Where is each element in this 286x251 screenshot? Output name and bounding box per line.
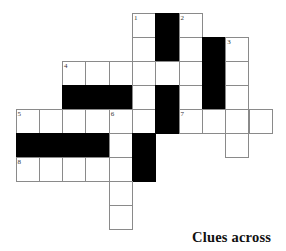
black-square — [16, 133, 40, 158]
answer-cell-3[interactable]: 3 — [225, 37, 249, 62]
answer-cell[interactable] — [109, 61, 133, 86]
answer-cell-7[interactable]: 7 — [179, 109, 203, 134]
answer-cell[interactable] — [85, 61, 109, 86]
answer-cell[interactable] — [132, 85, 156, 110]
black-square — [202, 37, 226, 62]
clue-number: 1 — [134, 14, 138, 22]
answer-cell-4[interactable]: 4 — [62, 61, 86, 86]
black-square — [155, 109, 179, 134]
answer-cell[interactable] — [155, 61, 179, 86]
answer-cell[interactable] — [39, 109, 63, 134]
clue-number: 2 — [181, 14, 185, 22]
answer-cell-6[interactable]: 6 — [109, 109, 133, 134]
clue-number: 7 — [181, 110, 185, 118]
answer-cell[interactable] — [132, 61, 156, 86]
answer-cell[interactable] — [39, 157, 63, 182]
answer-cell[interactable] — [62, 157, 86, 182]
answer-cell[interactable] — [62, 109, 86, 134]
answer-cell[interactable] — [225, 109, 249, 134]
answer-cell[interactable] — [225, 85, 249, 110]
crossword-grid: 12345678 — [0, 0, 286, 251]
clue-number: 8 — [18, 158, 22, 166]
black-square — [109, 85, 133, 110]
answer-cell[interactable] — [249, 109, 273, 134]
black-square — [132, 133, 156, 158]
clue-number: 4 — [64, 62, 68, 70]
answer-cell[interactable] — [225, 61, 249, 86]
black-square — [39, 133, 63, 158]
clue-number: 6 — [111, 110, 115, 118]
answer-cell[interactable] — [85, 157, 109, 182]
answer-cell[interactable] — [109, 181, 133, 206]
answer-cell[interactable] — [179, 37, 203, 62]
answer-cell[interactable] — [202, 109, 226, 134]
black-square — [155, 13, 179, 38]
black-square — [155, 85, 179, 110]
clue-number: 3 — [227, 38, 231, 46]
answer-cell[interactable] — [109, 205, 133, 230]
answer-cell-2[interactable]: 2 — [179, 13, 203, 38]
answer-cell[interactable] — [132, 109, 156, 134]
black-square — [132, 157, 156, 182]
answer-cell[interactable] — [85, 109, 109, 134]
black-square — [62, 85, 86, 110]
answer-cell[interactable] — [132, 37, 156, 62]
black-square — [155, 37, 179, 62]
answer-cell[interactable] — [225, 133, 249, 158]
clue-number: 5 — [18, 110, 22, 118]
answer-cell[interactable] — [179, 61, 203, 86]
answer-cell[interactable] — [109, 157, 133, 182]
answer-cell-5[interactable]: 5 — [16, 109, 40, 134]
answer-cell-8[interactable]: 8 — [16, 157, 40, 182]
answer-cell[interactable] — [179, 85, 203, 110]
clues-across-heading: Clues across — [192, 229, 271, 246]
black-square — [202, 61, 226, 86]
answer-cell-1[interactable]: 1 — [132, 13, 156, 38]
black-square — [62, 133, 86, 158]
answer-cell[interactable] — [109, 133, 133, 158]
black-square — [85, 85, 109, 110]
black-square — [85, 133, 109, 158]
black-square — [202, 85, 226, 110]
